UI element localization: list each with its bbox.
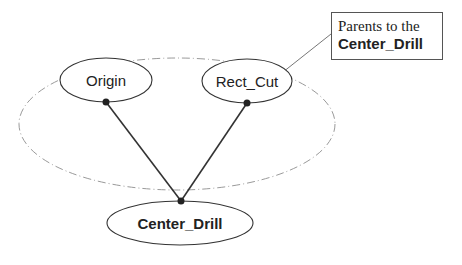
connector-dot (103, 99, 110, 106)
node-origin[interactable]: Origin (60, 58, 152, 102)
node-label: Center_Drill (137, 215, 222, 232)
connector-dot (244, 100, 251, 107)
node-label: Origin (86, 72, 126, 89)
callout-line-2: Center_Drill (338, 35, 436, 53)
node-rect-cut[interactable]: Rect_Cut (202, 59, 292, 103)
callout-box: Parents to the Center_Drill (331, 12, 443, 60)
edge-origin-center-drill (106, 102, 181, 201)
connector-dot (178, 198, 185, 205)
node-center-drill[interactable]: Center_Drill (107, 201, 253, 245)
node-label: Rect_Cut (216, 73, 279, 90)
edge-rect-cut-center-drill (181, 103, 247, 201)
callout-line-1: Parents to the (338, 17, 436, 35)
